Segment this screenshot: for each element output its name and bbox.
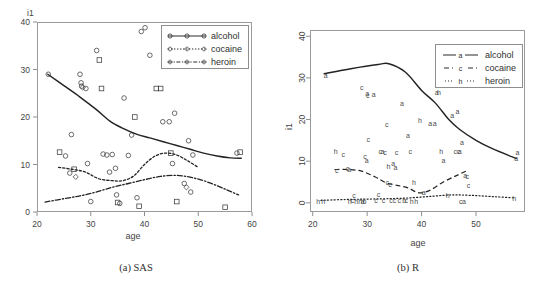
svg-text:0: 0 (297, 200, 307, 205)
svg-text:20: 20 (308, 219, 318, 229)
legend-row-heroin: h heroin (440, 74, 518, 87)
legend-row-heroin: heroin (166, 55, 244, 68)
legend-row-alcohol: a alcohol (440, 48, 518, 61)
svg-text:40: 40 (21, 17, 31, 27)
legend-sas: alcohol cocaine heroin (161, 25, 249, 69)
svg-text:20: 20 (297, 115, 307, 125)
trend-curves-sas (45, 74, 241, 202)
legend-label-cocaine: cocaine (211, 44, 242, 54)
legend-line-heroin (166, 56, 208, 68)
caption-r: (b) R (272, 262, 544, 273)
x-axis-title-r: age (410, 238, 425, 248)
svg-text:c: c (459, 64, 463, 71)
svg-text:40: 40 (140, 219, 150, 229)
svg-text:20: 20 (32, 219, 42, 229)
caption-sas: (a) SAS (0, 262, 272, 273)
legend-line-alcohol (166, 30, 208, 42)
svg-text:h: h (459, 77, 463, 84)
svg-text:40: 40 (417, 219, 427, 229)
legend-line-heroin: h (440, 75, 482, 87)
legend-label-heroin: heroin (485, 76, 510, 86)
svg-text:50: 50 (194, 219, 204, 229)
svg-text:10: 10 (21, 160, 31, 170)
svg-text:40: 40 (297, 31, 307, 41)
legend-line-cocaine: c (440, 62, 482, 74)
svg-text:10: 10 (297, 156, 307, 166)
svg-text:20: 20 (21, 112, 31, 122)
svg-text:30: 30 (297, 73, 307, 83)
legend-row-cocaine: cocaine (166, 42, 244, 55)
svg-text:60: 60 (247, 219, 257, 229)
legend-line-alcohol: a (440, 49, 482, 61)
legend-label-alcohol: alcohol (485, 50, 514, 60)
svg-text:a: a (459, 51, 463, 58)
svg-text:0: 0 (25, 207, 30, 217)
legend-row-cocaine: c cocaine (440, 61, 518, 74)
legend-line-cocaine (166, 43, 208, 55)
x-axis-title-sas: age (125, 231, 140, 241)
legend-label-cocaine: cocaine (485, 63, 516, 73)
panel-r: i1 40302010020304050 ahhhcccahcchhcabcaa… (272, 0, 544, 289)
legend-label-alcohol: alcohol (211, 31, 240, 41)
svg-text:50: 50 (471, 219, 481, 229)
svg-text:30: 30 (86, 219, 96, 229)
panel-sas: i1 4030201002030405060 age alcohol (0, 0, 272, 289)
legend-label-heroin: heroin (211, 57, 236, 67)
svg-text:30: 30 (362, 219, 372, 229)
legend-r: a alcohol c cocaine h heroin (435, 44, 523, 88)
legend-row-alcohol: alcohol (166, 29, 244, 42)
svg-text:30: 30 (21, 65, 31, 75)
